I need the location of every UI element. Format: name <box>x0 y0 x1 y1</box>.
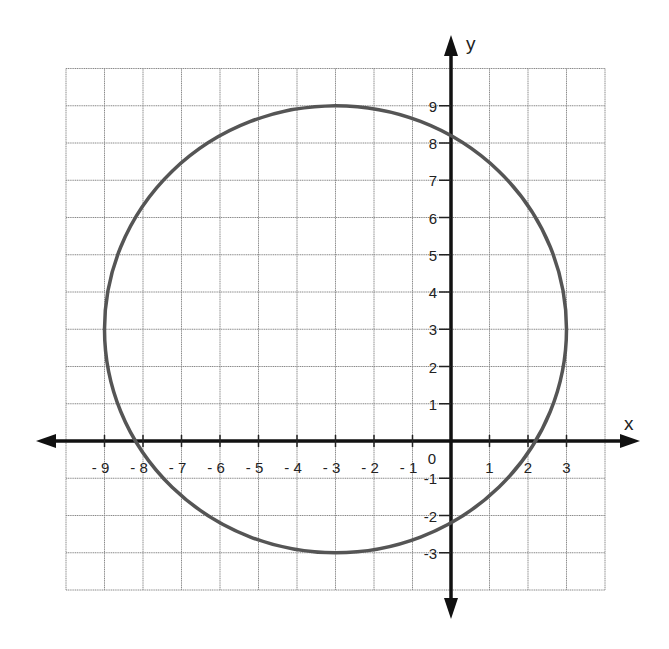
x-tick-label: - 6 <box>207 459 225 476</box>
origin-label: 0 <box>428 450 436 467</box>
x-tick-label: - 8 <box>130 459 148 476</box>
axes: x y <box>36 33 640 619</box>
y-axis-label: y <box>466 33 476 54</box>
x-axis-right-arrow-icon <box>620 434 640 448</box>
grid <box>66 69 605 591</box>
x-tick-label: 1 <box>485 459 493 476</box>
y-tick-label: 8 <box>429 135 437 152</box>
x-tick-label: - 9 <box>92 459 110 476</box>
x-tick-label: - 5 <box>246 459 264 476</box>
y-axis-down-arrow-icon <box>444 598 458 619</box>
y-tick-label: 3 <box>429 321 437 338</box>
x-tick-label: - 3 <box>323 459 341 476</box>
x-axis-label: x <box>624 413 634 434</box>
y-tick-label: 9 <box>429 98 437 115</box>
y-tick-label: 7 <box>429 172 437 189</box>
x-tick-label: - 2 <box>361 459 379 476</box>
y-tick-label: 5 <box>429 247 437 264</box>
coordinate-plane: x y - 9- 8- 7- 6- 5- 4- 3- 2- 1123098765… <box>0 0 669 649</box>
x-tick-label: 3 <box>562 459 570 476</box>
x-tick-label: - 1 <box>400 459 418 476</box>
y-tick-label: 2 <box>429 359 437 376</box>
y-tick-label: -3 <box>424 545 437 562</box>
x-tick-label: - 7 <box>169 459 187 476</box>
y-axis-up-arrow-icon <box>444 35 458 56</box>
y-tick-label: 1 <box>429 396 437 413</box>
y-tick-label: 4 <box>429 284 437 301</box>
x-tick-label: - 4 <box>284 459 302 476</box>
y-tick-label: 6 <box>429 210 437 227</box>
x-axis-left-arrow-icon <box>36 434 56 448</box>
x-tick-label: 2 <box>524 459 532 476</box>
y-tick-label: -2 <box>424 508 437 525</box>
y-tick-label: -1 <box>424 470 437 487</box>
